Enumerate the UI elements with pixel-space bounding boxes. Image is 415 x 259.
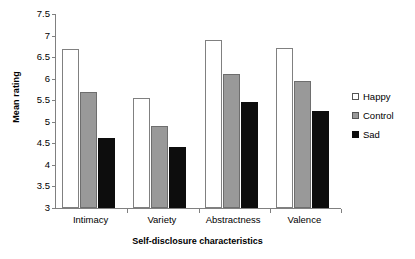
bar-sad: [169, 147, 186, 208]
x-axis-category-label: Intimacy: [55, 214, 126, 225]
bar-sad: [312, 111, 329, 208]
bar-control: [294, 81, 311, 208]
legend-swatch-control-icon: [352, 112, 359, 119]
bar-chart: Mean rating 7.576.565.554.543.53 Intimac…: [0, 0, 415, 259]
bar-control: [223, 74, 240, 208]
x-axis-tick-mark: [341, 209, 342, 213]
y-axis-tick-labels: 7.576.565.554.543.53: [24, 0, 50, 259]
y-axis-tick-label: 4.5: [26, 138, 50, 148]
y-axis-tick-mark: [52, 208, 56, 209]
y-axis-tick-label: 4: [26, 160, 50, 170]
y-axis-tick-label: 3: [26, 203, 50, 213]
legend-label: Happy: [363, 91, 390, 102]
x-axis-title: Self-disclosure characteristics: [55, 236, 340, 246]
bar-happy: [133, 98, 150, 208]
y-axis-tick-label: 5: [26, 117, 50, 127]
bar-group: [127, 14, 198, 208]
bar-control: [80, 92, 97, 208]
x-axis-tick-mark: [199, 209, 200, 213]
legend-label: Control: [363, 110, 394, 121]
x-axis-tick-mark: [270, 209, 271, 213]
x-axis-category-label: Valence: [269, 214, 340, 225]
bar-group: [56, 14, 127, 208]
x-axis-tick-mark: [127, 209, 128, 213]
bar-control: [151, 126, 168, 208]
x-axis-category-label: Variety: [126, 214, 197, 225]
legend-swatch-sad-icon: [352, 131, 359, 138]
y-axis-title: Mean rating: [11, 57, 21, 137]
y-axis-tick-label: 6.5: [26, 52, 50, 62]
bar-happy: [205, 40, 222, 208]
y-axis-tick-label: 6: [26, 74, 50, 84]
x-axis-category-label: Abstractness: [198, 214, 269, 225]
y-axis-tick-label: 3.5: [26, 181, 50, 191]
bar-happy: [276, 48, 293, 208]
legend-swatch-happy-icon: [352, 93, 359, 100]
plot-area: [55, 14, 341, 209]
y-axis-tick-label: 7: [26, 31, 50, 41]
legend-item: Control: [352, 107, 414, 123]
bar-group: [270, 14, 341, 208]
y-axis-tick-label: 7.5: [26, 9, 50, 19]
bar-group: [199, 14, 270, 208]
y-axis-tick-label: 5.5: [26, 95, 50, 105]
bar-sad: [98, 138, 115, 208]
legend-item: Happy: [352, 88, 414, 104]
bar-sad: [241, 102, 258, 208]
bar-happy: [62, 49, 79, 209]
legend-label: Sad: [363, 129, 380, 140]
legend-item: Sad: [352, 126, 414, 142]
legend: HappyControlSad: [352, 88, 414, 145]
